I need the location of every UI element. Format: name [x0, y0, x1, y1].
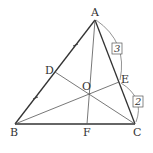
cevian-AF — [87, 20, 95, 124]
label-O: O — [82, 80, 91, 93]
label-E: E — [121, 73, 129, 86]
ratio-AE: 3 — [114, 43, 120, 54]
label-D: D — [45, 64, 54, 77]
side-AC — [95, 20, 135, 124]
ratio-EC: 2 — [134, 96, 141, 107]
label-C: C — [133, 126, 141, 139]
label-F: F — [83, 126, 91, 139]
triangle-diagram: 3 2 A B C D E F O — [0, 0, 153, 153]
label-B: B — [10, 126, 18, 139]
label-A: A — [90, 6, 100, 19]
